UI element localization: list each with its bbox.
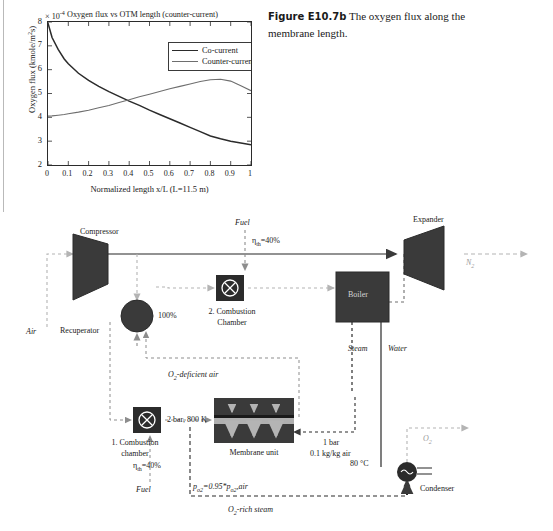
figure-caption-label: Figure E10.7b: [268, 11, 346, 22]
nitrogen-subscript: 2: [471, 263, 474, 269]
multiplier-exponent: -4: [60, 10, 65, 16]
compressor-shape: [73, 234, 108, 300]
x-tick-label: 0.9: [219, 169, 241, 178]
o2-deficient-air-label: O2-deficient air: [168, 370, 218, 383]
membrane-feed-conditions: 2 bar, 800 K: [167, 415, 207, 425]
x-tick-label: 0.7: [178, 169, 200, 178]
cc1-label-line1: 1. Combustion: [98, 438, 172, 448]
x-tick-label: 0.1: [56, 169, 78, 178]
chart-legend: Co-current Counter-current: [168, 42, 252, 71]
recuperator-efficiency: 100%: [158, 311, 177, 321]
x-tick-label: 0.8: [198, 169, 220, 178]
x-tick-label: 0.6: [158, 169, 180, 178]
y-axis-label-sup: 2: [27, 32, 33, 35]
legend-item-0: Co-current: [172, 45, 252, 56]
oxygen-subscript: 2: [429, 439, 432, 445]
air-label: Air: [26, 327, 36, 337]
page-margin-rule: [3, 0, 4, 212]
o2-rich-steam-label: O2-rich steam: [228, 505, 273, 518]
x-tick-label: 1: [239, 169, 261, 178]
recuperator-shape: [121, 300, 153, 332]
eta-th-top-label: ηth=40%: [252, 236, 280, 249]
stream-boiler-to-expander: [389, 254, 404, 302]
po2-post: ,air: [236, 482, 247, 491]
condenser-label: Condenser: [420, 484, 454, 494]
nitrogen-label: N2: [466, 258, 474, 271]
x-tick-label: 0.4: [117, 169, 139, 178]
y-tick-label: 2: [26, 159, 42, 169]
membrane-unit-label: Membrane unit: [214, 448, 294, 458]
process-flowsheet: Compressor Air Fuel ηth=40% 2. Combustio…: [0, 212, 553, 531]
y-axis-label: Oxygen flux (kmole/m2s): [27, 0, 38, 139]
x-tick-label: 0.2: [77, 169, 99, 178]
stream-oxygen-product: [407, 428, 468, 462]
oxygen-flux-chart: × 10-4 Oxygen flux vs OTM length (counte…: [12, 6, 267, 211]
eta-value-top: =40%: [261, 236, 280, 245]
po2-mid: =0.95*p: [203, 482, 230, 491]
stream-sweep-steam: [294, 397, 355, 432]
expander-shape: [404, 226, 444, 290]
cc1-label-line2: chamber: [98, 449, 172, 459]
chart-axis-multiplier: × 10-4: [45, 10, 65, 21]
condenser-temperature: 80 °C: [350, 459, 369, 469]
multiplier-base: × 10: [45, 12, 60, 21]
y-axis-label-pre: Oxygen flux (kmole/m: [27, 35, 37, 113]
water-label: Water: [388, 344, 407, 354]
fuel-top-label: Fuel: [235, 218, 250, 228]
eta-th-bottom-label: ηth=40%: [133, 461, 161, 474]
chart-title: Oxygen flux vs OTM length (counter-curre…: [67, 10, 218, 19]
legend-label-counter-current: Counter-current: [202, 57, 252, 66]
x-tick-label: 0.3: [97, 169, 119, 178]
plot-area: Co-current Counter-current: [47, 21, 252, 166]
stream-air-to-cc1: [110, 322, 131, 420]
membrane-strip: [214, 418, 294, 424]
o2-deficient-text: -deficient air: [177, 370, 219, 379]
legend-item-1: Counter-current: [172, 56, 252, 67]
fuel-bottom-label: Fuel: [136, 485, 151, 495]
y-axis-label-post: s): [27, 26, 37, 32]
recuperator-label: Recuperator: [60, 326, 99, 336]
oxygen-label: O2: [423, 434, 432, 447]
steam-label: Steam: [348, 344, 368, 354]
figure-caption: Figure E10.7b The oxygen flux along the …: [268, 8, 498, 41]
compressor-label: Compressor: [80, 227, 119, 237]
cc2-label-line1: 2. Combustion: [196, 307, 268, 317]
x-axis-label: Normalized length x/L (L=11.5 m): [47, 184, 252, 194]
membrane-divider-line: [214, 415, 294, 418]
eta-value-bottom: =40%: [142, 461, 161, 470]
x-tick-label: 0.5: [138, 169, 160, 178]
o2-rich-text: -rich steam: [237, 505, 273, 514]
legend-swatch-co-current: [172, 50, 198, 51]
sweep-conditions-line1: 1 bar: [323, 438, 339, 448]
stream-air: [47, 254, 73, 327]
po2-condition-label: po2=0.95*po2,air: [193, 482, 248, 495]
sweep-conditions-line2: 0.1 kg/kg air: [310, 449, 351, 459]
legend-swatch-counter-current: [172, 61, 198, 62]
stream-recuperator-to-cc2: [156, 287, 214, 288]
expander-label: Expander: [413, 215, 444, 225]
x-tick-label: 0: [36, 169, 58, 178]
boiler-label: Boiler: [348, 290, 368, 300]
cc2-label-line2: Chamber: [196, 318, 268, 328]
legend-label-co-current: Co-current: [202, 46, 238, 55]
